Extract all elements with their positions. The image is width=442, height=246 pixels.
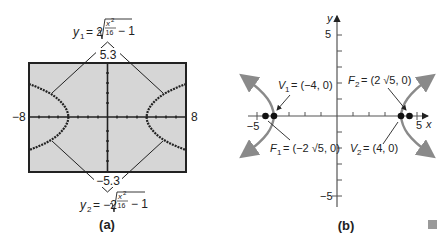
panel-a: 5.3 −5.3 −8 8 y 1 = 2 x 2 16 − 1 y 2 = −… (12, 17, 198, 232)
tick-label-yneg5: −5 (320, 190, 333, 202)
svg-text:= (2 √5, 0): = (2 √5, 0) (361, 74, 411, 86)
end-marker-square (428, 220, 437, 229)
svg-text:2: 2 (123, 190, 127, 196)
svg-text:2: 2 (355, 80, 360, 89)
label-f1: F 1 = (−2 √5, 0) (270, 142, 340, 157)
svg-text:1: 1 (80, 32, 85, 41)
label-f2: F 2 = (2 √5, 0) (348, 74, 411, 89)
svg-text:2: 2 (357, 148, 362, 157)
x-axis-label: x (425, 118, 432, 130)
label-v1: V 1 = (−4, 0) (278, 79, 333, 94)
svg-text:= (4, 0): = (4, 0) (363, 142, 398, 154)
svg-text:− 1: − 1 (118, 24, 135, 38)
tick-label-x5: 5 (416, 119, 422, 131)
equation-y1: y 1 = 2 x 2 16 − 1 (72, 17, 135, 41)
caption-b: (b) (338, 218, 355, 233)
svg-text:2: 2 (87, 205, 92, 214)
panel-b: x y 5 −5 −5 5 (245, 12, 432, 233)
svg-text:y: y (72, 25, 80, 39)
label-v2: V 2 = (4, 0) (350, 142, 398, 157)
svg-text:16: 16 (106, 29, 114, 36)
tick-label-y5: 5 (325, 28, 331, 40)
svg-text:1: 1 (277, 148, 282, 157)
svg-text:y: y (79, 198, 87, 212)
ymax-label: 5.3 (100, 48, 117, 62)
svg-text:2: 2 (111, 17, 115, 23)
focus-f2-point (406, 113, 413, 120)
y-axis-label: y (326, 12, 334, 24)
svg-text:− 1: − 1 (131, 197, 148, 211)
svg-text:= (−2 √5, 0): = (−2 √5, 0) (283, 142, 340, 154)
focus-f1-point (262, 113, 269, 120)
svg-text:16: 16 (118, 202, 126, 209)
tick-label-xneg5: −5 (247, 120, 260, 132)
ymin-label: −5.3 (96, 174, 120, 188)
svg-text:= (−4, 0): = (−4, 0) (291, 79, 333, 91)
vertex-v1-point (271, 113, 278, 120)
xmax-label: 8 (191, 110, 198, 124)
figure: 5.3 −5.3 −8 8 y 1 = 2 x 2 16 − 1 y 2 = −… (0, 0, 442, 246)
caption-a: (a) (99, 217, 115, 232)
xmin-label: −8 (12, 110, 26, 124)
svg-text:1: 1 (285, 85, 290, 94)
equation-y2: y 2 = −2 x 2 16 − 1 (79, 190, 148, 214)
vertex-v2-point (398, 113, 405, 120)
